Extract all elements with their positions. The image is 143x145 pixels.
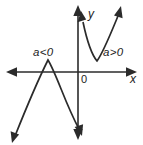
x-axis-label: x [130,73,136,85]
y-axis-label: y [88,8,94,20]
curve-a-positive-right-arrow-icon [114,6,123,18]
label-a-negative: a<0 [33,47,53,59]
x-axis-left-arrow-icon [6,67,17,76]
x-axis [6,67,137,76]
curve-a-negative-left-arrow-icon [11,131,20,143]
label-a-positive: a>0 [103,47,123,59]
origin-label: 0 [81,74,87,85]
diagram-canvas [0,0,143,145]
parabola-diagram: a<0 a>0 y x 0 [0,0,143,145]
